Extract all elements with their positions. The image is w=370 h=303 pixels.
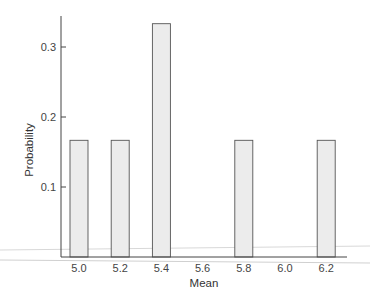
x-axis-label: Mean xyxy=(190,277,219,289)
bar-5.2 xyxy=(111,140,129,257)
y-ticks: 0.10.20.3 xyxy=(41,41,66,193)
x-tick-label: 5.8 xyxy=(236,262,251,274)
x-ticks: 5.05.25.45.65.86.06.2 xyxy=(71,262,333,274)
bar-5.0 xyxy=(70,140,88,257)
bar-6.2 xyxy=(317,140,335,257)
y-tick-label: 0.2 xyxy=(41,111,56,123)
scan-line xyxy=(0,246,370,250)
bars xyxy=(70,24,335,257)
y-tick-label: 0.1 xyxy=(41,181,56,193)
x-tick-label: 5.6 xyxy=(195,262,210,274)
x-tick-label: 6.0 xyxy=(277,262,292,274)
x-tick-label: 5.4 xyxy=(154,262,169,274)
bar-5.8 xyxy=(235,140,253,257)
scan-line xyxy=(0,260,370,263)
x-tick-label: 5.2 xyxy=(113,262,128,274)
x-tick-label: 6.2 xyxy=(319,262,334,274)
x-tick-label: 5.0 xyxy=(71,262,86,274)
y-tick-label: 0.3 xyxy=(41,41,56,53)
y-axis-label: Probability xyxy=(23,123,35,177)
probability-bar-chart: 0.10.20.3 5.05.25.45.65.86.06.2 Mean Pro… xyxy=(0,0,370,303)
bar-5.4 xyxy=(152,24,170,257)
